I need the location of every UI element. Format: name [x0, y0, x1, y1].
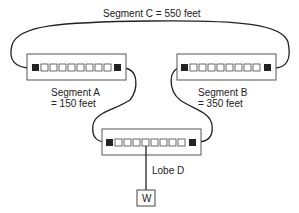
mau-a: [27, 54, 126, 80]
mau-b: [177, 54, 276, 80]
mau-d: [102, 129, 201, 155]
token-ring-diagram: [0, 0, 299, 213]
segment-b-label-line2: = 350 feet: [198, 98, 243, 109]
segment-b-label-line1: Segment B: [198, 87, 247, 98]
segment-c-label: Segment C = 550 feet: [103, 8, 201, 19]
workstation-label: W: [142, 193, 151, 204]
lobe-d-label: Lobe D: [152, 165, 184, 176]
segment-a-label-line1: Segment A: [51, 87, 100, 98]
segment-a-label-line2: = 150 feet: [51, 98, 96, 109]
